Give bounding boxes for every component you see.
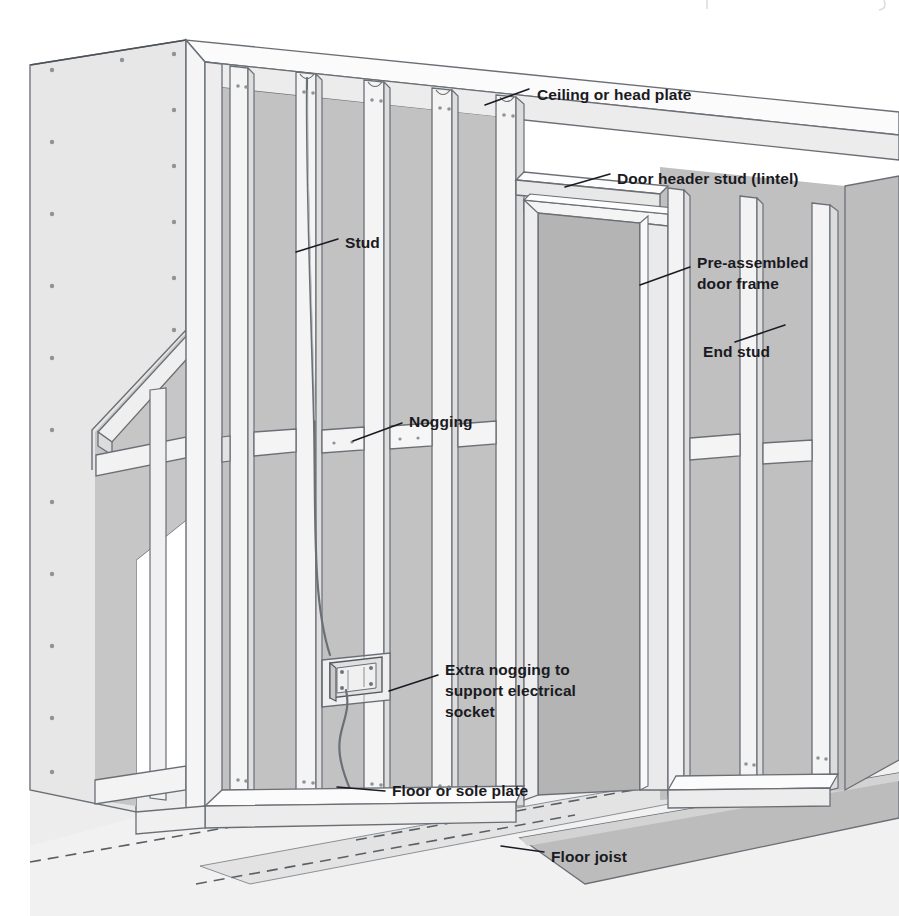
label-pre-assembled-door-frame: Pre-assembled <box>697 254 809 271</box>
stud-corner <box>186 40 222 812</box>
stud-wall-illustration: Ceiling or head plate Door header stud (… <box>0 0 899 916</box>
label-stud: Stud <box>345 234 380 251</box>
door-opening-assembly <box>516 172 674 800</box>
label-nogging: Nogging <box>409 413 473 430</box>
label-door-header-stud: Door header stud (lintel) <box>617 170 799 187</box>
label-pre-assembled-door-frame-line2: door frame <box>697 275 779 292</box>
stud-6-door-trimmer <box>496 95 524 806</box>
label-ceiling-head-plate: Ceiling or head plate <box>537 86 692 103</box>
label-extra-nogging: Extra nogging to <box>445 661 570 678</box>
stud-2 <box>230 66 254 806</box>
right-return-wall-board <box>845 176 899 790</box>
label-extra-nogging-line3: socket <box>445 703 495 720</box>
label-floor-sole-plate: Floor or sole plate <box>392 782 529 799</box>
diagram-canvas: Ceiling or head plate Door header stud (… <box>0 0 899 916</box>
label-extra-nogging-line2: support electrical <box>445 682 576 699</box>
label-floor-joist: Floor joist <box>551 848 627 865</box>
label-end-stud: End stud <box>703 343 770 360</box>
